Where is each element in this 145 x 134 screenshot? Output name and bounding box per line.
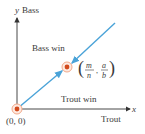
point-label-num1: m [86, 61, 92, 70]
region-bass-win: Bass win [32, 43, 65, 53]
trajectory-lower [18, 71, 62, 108]
point-label-den1: n [87, 71, 91, 80]
svg-text:,: , [96, 66, 98, 75]
point-label-den2: b [102, 71, 106, 80]
svg-text:): ) [109, 58, 115, 79]
origin-point [15, 107, 20, 112]
bass-trout-diagram: y Bass x Trout Bass win Trout win (0, 0)… [0, 0, 145, 134]
svg-text:(: ( [78, 58, 84, 79]
equilibrium-point [65, 65, 70, 70]
region-trout-win: Trout win [61, 94, 97, 104]
point-label-num2: a [102, 61, 106, 70]
point-label: ( m n , a b ) [78, 58, 115, 80]
y-axis-var: y [14, 5, 19, 15]
trajectory-upper [72, 23, 115, 63]
x-axis-var: x [131, 104, 136, 114]
origin-label: (0, 0) [6, 116, 26, 126]
x-axis-label: Trout [101, 114, 121, 124]
y-axis-label: Bass [22, 5, 40, 15]
